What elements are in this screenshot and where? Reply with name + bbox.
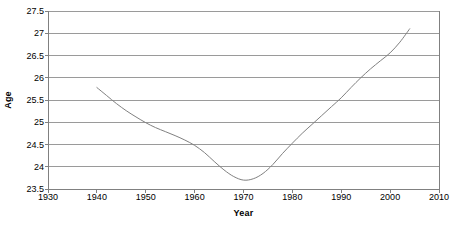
chart-container: Age 23.52424.52525.52626.52727.5 1930194… <box>0 0 459 227</box>
series-line <box>97 29 410 180</box>
plot-area <box>0 0 459 227</box>
grid-lines <box>48 11 439 189</box>
x-axis-title: Year <box>48 208 439 218</box>
data-series <box>97 29 410 180</box>
x-tick-marks <box>48 189 439 193</box>
